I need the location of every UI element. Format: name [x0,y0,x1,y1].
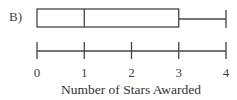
x-axis [37,42,226,59]
x-axis-tick-label: 0 [34,65,41,80]
x-axis-tick-label: 1 [81,65,88,80]
x-axis-tick-labels: 01234 [34,65,230,80]
x-axis-tick-label: 4 [223,65,230,80]
x-axis-tick-label: 3 [176,65,183,80]
x-axis-title: Number of Stars Awarded [61,82,201,97]
box-plot [37,9,226,28]
x-axis-tick-label: 2 [128,65,135,80]
box-plot-chart: 01234 Number of Stars Awarded [0,0,237,100]
box-q1-q3 [37,9,179,27]
